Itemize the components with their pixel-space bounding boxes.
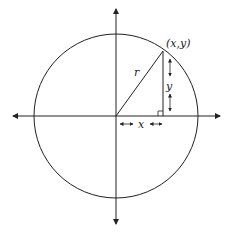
radius-label: r (134, 66, 140, 79)
radius-line (116, 51, 163, 116)
unit-circle-diagram: (x,y) r y x (0, 0, 231, 236)
x-label: x (138, 118, 145, 131)
diagram-canvas: (x,y) r y x (0, 0, 231, 236)
point-label: (x,y) (166, 37, 191, 50)
right-angle-marker (158, 111, 163, 116)
y-label: y (165, 80, 173, 93)
